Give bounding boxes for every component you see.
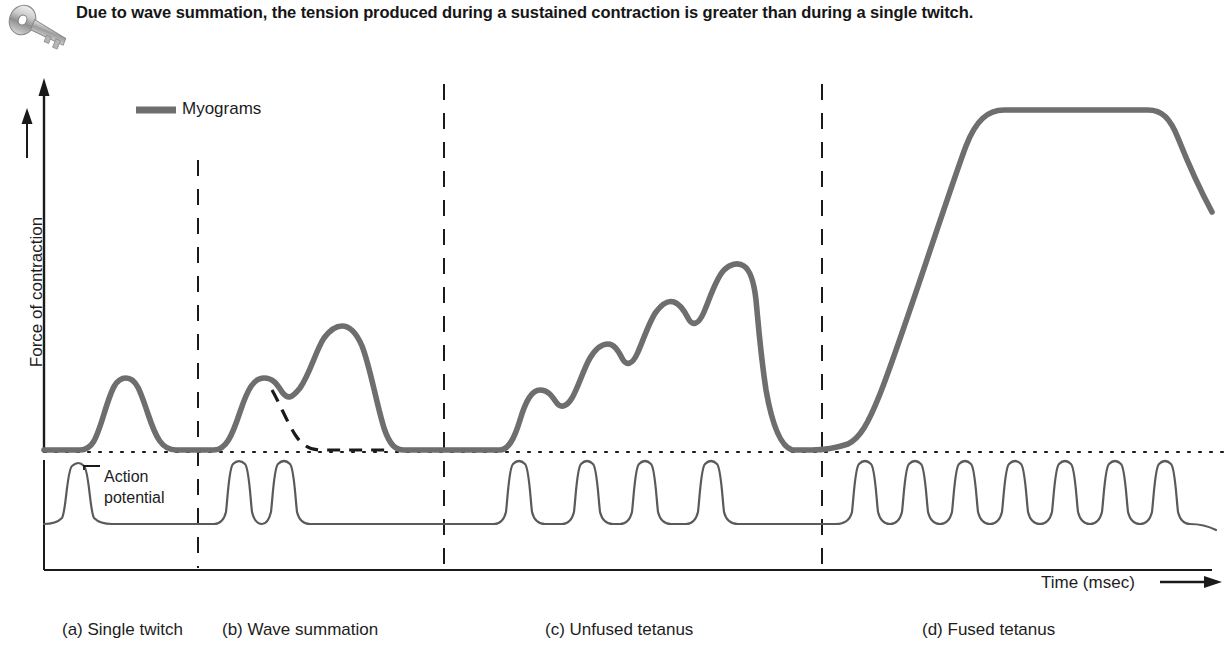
legend-label-myograms: Myograms — [182, 99, 261, 119]
myogram-plot — [0, 0, 1230, 647]
action-potential-line-1: Action — [104, 466, 165, 487]
panel-caption-d: (d) Fused tetanus — [922, 620, 1055, 640]
x-axis-arrow-icon — [1160, 576, 1222, 588]
x-axis-label: Time (msec) — [1041, 573, 1135, 593]
panel-caption-c: (c) Unfused tetanus — [545, 620, 693, 640]
action-potential-line-2: potential — [104, 487, 165, 508]
action-potential-annotation: Action potential — [104, 466, 165, 508]
panel-caption-b: (b) Wave summation — [222, 620, 378, 640]
y-axis-arrow-icon — [22, 108, 33, 158]
y-axis-label: Force of contraction — [27, 187, 47, 397]
myogram-trace — [44, 110, 1212, 450]
panel-caption-a: (a) Single twitch — [62, 620, 183, 640]
action-potential-trace — [44, 461, 1216, 530]
myogram-figure: Due to wave summation, the tension produ… — [0, 0, 1230, 647]
